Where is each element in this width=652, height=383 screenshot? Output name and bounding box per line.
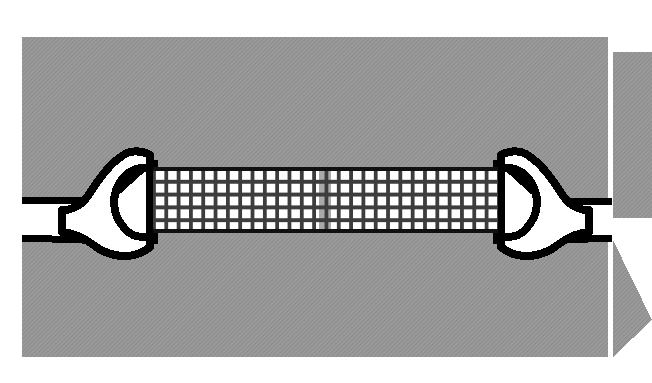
mesh-highlight-column [319,168,331,232]
mesh-bottom-rail [153,229,498,233]
mesh-top-rail [153,167,498,171]
mesh-band [153,167,498,233]
crack-bridging-mesh-figure [0,0,652,383]
